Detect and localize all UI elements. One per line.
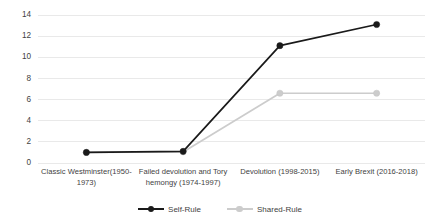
legend-line-marker-icon — [227, 205, 253, 214]
x-axis-label-1: Failed devolution and Tory hemongy (1974… — [135, 167, 232, 197]
x-axis-label-3: Early Brexit (2016-2018) — [328, 167, 425, 197]
y-axis-tick-label: 4 — [26, 116, 31, 125]
legend-item-shared-rule[interactable]: Shared-Rule — [227, 205, 302, 214]
x-axis-label-2: Devolution (1998-2015) — [232, 167, 329, 197]
y-axis-tick-label: 10 — [22, 52, 32, 61]
plot-area: 14121086420 — [0, 0, 440, 170]
data-point-marker — [83, 149, 89, 155]
legend-item-self-rule[interactable]: Self-Rule — [138, 205, 201, 214]
x-axis-category-labels: Classic Westminster(1950-1973) Failed de… — [38, 167, 425, 197]
series-self-rule — [83, 21, 379, 155]
data-point-marker — [277, 43, 283, 49]
y-axis-tick-label: 6 — [26, 95, 31, 104]
data-point-marker — [180, 148, 186, 154]
y-axis-tick-label: 2 — [26, 137, 31, 146]
line-chart: 14121086420 Classic Westminster(1950-197… — [0, 0, 440, 221]
legend-line-marker-icon — [138, 205, 164, 214]
plot-svg: 14121086420 — [0, 0, 440, 170]
gridlines — [38, 15, 425, 163]
y-axis-tick-label: 8 — [26, 74, 31, 83]
series-line — [86, 93, 376, 152]
y-axis-tick-label: 14 — [22, 10, 32, 19]
y-axis-tick-label: 0 — [26, 158, 31, 167]
series-line — [86, 25, 376, 153]
x-axis-label-0: Classic Westminster(1950-1973) — [38, 167, 135, 197]
data-point-marker — [374, 21, 380, 27]
chart-legend: Self-Rule Shared-Rule — [0, 200, 440, 218]
y-axis-tick-label: 12 — [22, 31, 32, 40]
data-point-marker — [374, 90, 380, 96]
y-axis-tick-labels: 14121086420 — [22, 10, 32, 167]
legend-label-self-rule: Self-Rule — [168, 205, 201, 214]
legend-label-shared-rule: Shared-Rule — [257, 205, 302, 214]
data-point-marker — [277, 90, 283, 96]
